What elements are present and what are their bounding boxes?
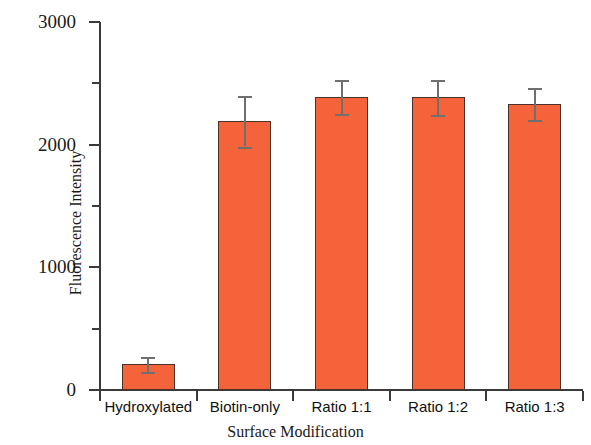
error-bar-cap-lower: [431, 115, 445, 117]
y-tick-major: [89, 266, 100, 268]
y-tick-major: [89, 21, 100, 23]
error-bar-stem: [147, 357, 149, 372]
x-tick-label: Ratio 1:3: [505, 398, 565, 415]
y-tick-label: 2000: [20, 134, 76, 156]
x-axis-title: Surface Modification: [0, 423, 591, 441]
x-tick: [292, 391, 294, 401]
error-bar-cap-upper: [431, 80, 445, 82]
y-tick-label: 0: [20, 379, 76, 401]
y-tick-label: 1000: [20, 256, 76, 278]
error-bar-cap-upper: [335, 80, 349, 82]
error-bar-cap-upper: [528, 88, 542, 90]
x-tick-label: Ratio 1:2: [408, 398, 468, 415]
x-tick: [582, 391, 584, 401]
y-tick-major: [89, 144, 100, 146]
x-tick-label: Hydroxylated: [105, 398, 193, 415]
x-tick: [99, 391, 101, 401]
error-bar-stem: [341, 80, 343, 114]
chart-figure: Fluorescence Intensity Surface Modificat…: [0, 0, 591, 445]
error-bar-stem: [534, 88, 536, 120]
error-bar-cap-lower: [335, 114, 349, 116]
bar: [218, 121, 271, 390]
error-bar-cap-upper: [238, 96, 252, 98]
error-bar-cap-lower: [528, 120, 542, 122]
x-tick-label: Ratio 1:1: [311, 398, 371, 415]
y-tick-minor: [92, 328, 100, 330]
x-tick: [196, 391, 198, 401]
y-tick-minor: [92, 82, 100, 84]
error-bar-cap-lower: [238, 147, 252, 149]
error-bar-cap-upper: [141, 357, 155, 359]
error-bar-stem: [437, 80, 439, 116]
bar: [508, 104, 561, 390]
y-tick-minor: [92, 205, 100, 207]
error-bar-stem: [244, 96, 246, 146]
error-bar-cap-lower: [141, 372, 155, 374]
x-tick: [389, 391, 391, 401]
x-tick-label: Biotin-only: [210, 398, 280, 415]
bar: [315, 97, 368, 390]
x-tick: [485, 391, 487, 401]
y-tick-label: 3000: [20, 11, 76, 33]
bar: [412, 97, 465, 390]
